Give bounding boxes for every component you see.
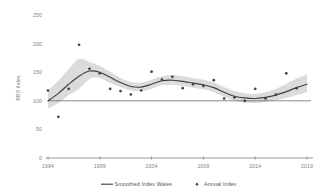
data-point [78,43,81,46]
data-point [119,90,122,93]
x-tick-label: 1994 [42,163,54,169]
chart-legend: Smoothed Index Wales Annual Index [101,181,237,187]
data-point [275,93,278,96]
y-tick-label: 150 [33,69,42,75]
data-point [192,83,195,86]
data-point [202,85,205,88]
data-point [243,99,246,102]
data-point [264,97,267,100]
x-tick-label: 2014 [249,163,261,169]
data-point [57,115,60,118]
bbs-index-chart: 050100150200250 199419992004200920142019… [0,0,331,192]
y-axis-title: BBS Index [15,75,21,101]
data-point [254,87,257,90]
data-point [233,96,236,99]
confidence-band [48,59,307,109]
y-axis-tick-labels: 050100150200250 [33,12,42,161]
data-point [109,87,112,90]
y-tick-label: 200 [33,41,42,47]
legend-dot-swatch [196,183,199,186]
chart-container: 050100150200250 199419992004200920142019… [0,0,331,192]
legend-label-annual-index: Annual Index [204,181,237,187]
x-tick-label: 2019 [301,163,313,169]
y-tick-label: 50 [36,126,42,132]
x-tick-label: 2004 [146,163,158,169]
data-point [88,67,91,70]
y-tick-label: 0 [39,155,42,161]
x-tick-label: 2009 [197,163,209,169]
data-point [181,87,184,90]
x-tick-label: 1999 [94,163,106,169]
data-point [223,97,226,100]
legend-label-smoothed-index-wales: Smoothed Index Wales [115,181,173,187]
y-tick-label: 250 [33,12,42,18]
data-point [47,89,50,92]
x-axis-tick-labels: 199419992004200920142019 [42,163,313,169]
data-point [212,79,215,82]
y-tick-label: 100 [33,98,42,104]
data-point [130,93,133,96]
data-point [295,87,298,90]
data-point [67,87,70,90]
data-point [171,75,174,78]
data-point [150,70,153,73]
data-point [140,89,143,92]
data-point [98,72,101,75]
data-point [161,78,164,81]
data-point [285,72,288,75]
